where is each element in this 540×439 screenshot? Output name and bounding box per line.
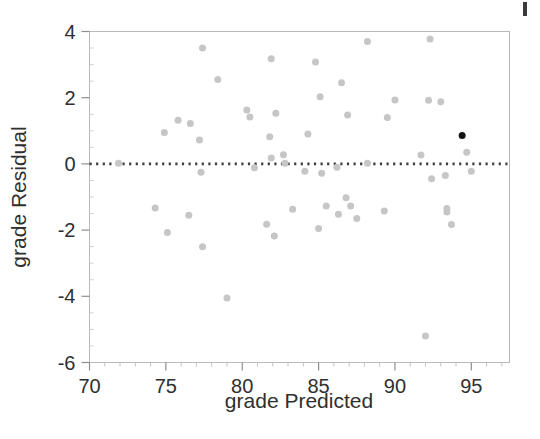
data-point bbox=[268, 55, 275, 62]
y-axis-tick-labels: -6-4-2024 bbox=[58, 21, 76, 374]
data-point bbox=[443, 208, 450, 215]
data-point bbox=[271, 233, 278, 240]
y-tick-label--6: -6 bbox=[58, 352, 76, 374]
data-point bbox=[164, 229, 171, 236]
data-point bbox=[323, 202, 330, 209]
data-point bbox=[437, 98, 444, 105]
data-point bbox=[422, 333, 429, 340]
data-point bbox=[315, 225, 322, 232]
y-axis-label: grade Residual bbox=[7, 126, 30, 267]
y-axis-ticks bbox=[82, 32, 94, 363]
data-point bbox=[272, 110, 279, 117]
data-point bbox=[187, 120, 194, 127]
data-point bbox=[304, 131, 311, 138]
data-point bbox=[417, 151, 424, 158]
data-point bbox=[428, 175, 435, 182]
data-point bbox=[243, 106, 250, 113]
data-point bbox=[448, 221, 455, 228]
data-point bbox=[364, 38, 371, 45]
data-point bbox=[115, 160, 122, 167]
data-point bbox=[344, 111, 351, 118]
residual-plot-figure: 707580859095 -6-4-2024 grade Predicted g… bbox=[0, 0, 540, 439]
data-point bbox=[353, 215, 360, 222]
data-point bbox=[343, 194, 350, 201]
data-point bbox=[161, 129, 168, 136]
data-point bbox=[364, 160, 371, 167]
data-point bbox=[468, 168, 475, 175]
x-axis-ticks bbox=[90, 363, 502, 371]
data-point bbox=[318, 170, 325, 177]
x-axis-label: grade Predicted bbox=[225, 389, 373, 412]
y-tick-label--2: -2 bbox=[58, 219, 76, 241]
data-point bbox=[463, 149, 470, 156]
x-tick-label-75: 75 bbox=[155, 375, 177, 397]
data-point bbox=[317, 93, 324, 100]
data-point bbox=[196, 137, 203, 144]
x-tick-label-70: 70 bbox=[78, 375, 100, 397]
data-point bbox=[175, 117, 182, 124]
data-point bbox=[268, 154, 275, 161]
data-point bbox=[427, 36, 434, 43]
data-point bbox=[384, 114, 391, 121]
data-point bbox=[246, 113, 253, 120]
data-point bbox=[280, 151, 287, 158]
data-point bbox=[347, 202, 354, 209]
scatter-plot-canvas: 707580859095 -6-4-2024 grade Predicted g… bbox=[0, 0, 540, 439]
data-point bbox=[335, 211, 342, 218]
y-tick-label--4: -4 bbox=[58, 285, 76, 307]
y-tick-label-2: 2 bbox=[64, 87, 75, 109]
data-point bbox=[251, 164, 258, 171]
data-point bbox=[199, 243, 206, 250]
plot-frame bbox=[90, 32, 510, 363]
data-point bbox=[391, 97, 398, 104]
highlighted-data-point bbox=[459, 132, 466, 139]
data-point bbox=[266, 133, 273, 140]
data-point bbox=[301, 168, 308, 175]
x-tick-label-90: 90 bbox=[384, 375, 406, 397]
data-point bbox=[333, 164, 340, 171]
data-point bbox=[214, 76, 221, 83]
data-point bbox=[223, 294, 230, 301]
data-point bbox=[338, 79, 345, 86]
data-point bbox=[381, 207, 388, 214]
y-tick-label-0: 0 bbox=[64, 153, 75, 175]
data-point-group bbox=[115, 36, 475, 340]
data-point bbox=[425, 97, 432, 104]
data-point bbox=[152, 204, 159, 211]
data-point bbox=[263, 221, 270, 228]
data-point bbox=[197, 169, 204, 176]
data-point bbox=[289, 206, 296, 213]
y-tick-label-4: 4 bbox=[64, 21, 75, 43]
x-tick-label-95: 95 bbox=[460, 375, 482, 397]
data-point bbox=[281, 160, 288, 167]
data-point bbox=[442, 172, 449, 179]
data-point bbox=[185, 212, 192, 219]
data-point bbox=[199, 45, 206, 52]
data-point bbox=[312, 58, 319, 65]
